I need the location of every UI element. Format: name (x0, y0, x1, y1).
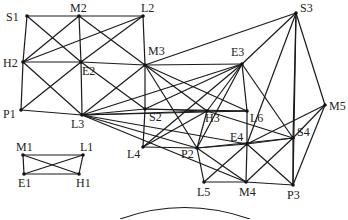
node-s4 (291, 136, 295, 140)
node-p1 (19, 108, 23, 112)
node-l5 (202, 180, 206, 184)
node-l6 (245, 109, 249, 113)
node-label-l1: L1 (80, 140, 93, 154)
edge-e3-s4 (242, 64, 293, 138)
edge-l2-e2 (81, 16, 143, 62)
edge-e3-h3 (207, 64, 242, 111)
edge-m3-e3 (145, 64, 242, 65)
node-label-h1: H1 (76, 176, 91, 190)
node-label-m1: M1 (16, 140, 33, 154)
edge-l3-e3 (82, 64, 242, 115)
node-label-m2: M2 (70, 1, 87, 15)
node-label-p3: P3 (287, 188, 300, 202)
node-p3 (291, 183, 295, 187)
edge-m3-s3 (145, 13, 296, 65)
node-s3 (294, 11, 298, 15)
edge-p1-l3 (21, 110, 82, 115)
node-m4 (244, 180, 248, 184)
edge-l2-m3 (143, 16, 145, 65)
node-label-e2: E2 (82, 64, 95, 78)
edge-e4-p3 (247, 144, 293, 185)
node-label-e3: E3 (231, 45, 244, 59)
node-label-h2: H2 (3, 56, 18, 70)
node-s2 (143, 107, 147, 111)
edge-m2-m3 (79, 16, 145, 65)
edge-s4-m4 (246, 138, 293, 182)
edge-h2-p1 (21, 62, 23, 110)
node-l4 (141, 145, 145, 149)
edge-e2-p1 (21, 62, 81, 110)
node-e4 (245, 142, 249, 146)
edge-s1-h2 (23, 16, 27, 62)
node-label-e4: E4 (230, 130, 243, 144)
edge-s2-l4 (143, 109, 145, 147)
edges-layer (21, 13, 325, 185)
node-label-l5: L5 (197, 185, 210, 199)
node-label-p2: P2 (181, 147, 194, 161)
node-label-m4: M4 (239, 185, 256, 199)
node-h2 (21, 60, 25, 64)
edge-s3-m5 (296, 13, 325, 105)
node-label-s2: S2 (149, 110, 162, 124)
node-s1 (25, 14, 29, 18)
edge-l3-m4 (82, 115, 246, 182)
node-p2 (195, 146, 199, 150)
edge-l2-h2 (23, 16, 143, 62)
edge-l1-h1 (79, 155, 83, 174)
node-label-m5: M5 (329, 99, 346, 113)
edge-m2-h2 (23, 16, 79, 62)
node-label-l2: L2 (141, 1, 154, 15)
node-e3 (240, 62, 244, 66)
node-label-l4: L4 (127, 147, 140, 161)
node-label-e1: E1 (18, 176, 31, 190)
node-label-s1: S1 (6, 10, 19, 24)
node-label-s3: S3 (300, 1, 313, 15)
node-m3 (143, 63, 147, 67)
edge-e3-s3 (242, 13, 296, 64)
edge-s1-e2 (27, 16, 81, 62)
edge-e4-m4 (246, 144, 247, 182)
partial-arc (120, 208, 250, 220)
node-label-h3: H3 (205, 111, 220, 125)
node-label-s4: S4 (297, 125, 310, 139)
edge-m5-p3 (293, 105, 325, 185)
edge-e4-l5 (204, 144, 247, 182)
node-m5 (323, 103, 327, 107)
node-label-l3: L3 (71, 117, 84, 131)
node-label-m3: M3 (148, 44, 165, 58)
edge-m2-e2 (79, 16, 81, 62)
node-label-l6: L6 (250, 111, 263, 125)
network-diagram: S1M2L2H2E2M3P1L3S2L4H3L6E3S3M5S4E4P2L5M4… (0, 0, 348, 219)
node-label-p1: P1 (3, 107, 16, 121)
edge-h2-l3 (23, 62, 82, 115)
edge-m1-e1 (23, 155, 24, 174)
